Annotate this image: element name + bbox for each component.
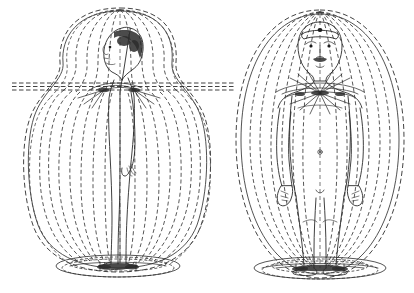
aura-diagram-svg [0, 0, 414, 293]
paper-background [0, 0, 414, 293]
diagram-canvas [0, 0, 414, 293]
